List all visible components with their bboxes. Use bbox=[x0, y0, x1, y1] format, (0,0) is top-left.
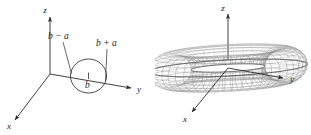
x-axis-label-right: x bbox=[182, 114, 187, 124]
torus-figure: b − a b + a b z y x bbox=[0, 0, 311, 135]
leader-inner bbox=[63, 42, 72, 74]
z-axis-label-left: z bbox=[42, 5, 47, 15]
label-center-distance: b bbox=[85, 80, 90, 90]
y-axis-label-right: y bbox=[289, 74, 294, 84]
panel-generating-circle: b − a b + a b z y x bbox=[0, 0, 155, 135]
z-axis-label-right: z bbox=[220, 3, 225, 13]
label-inner-radius: b − a bbox=[48, 31, 69, 41]
y-axis-label-left: y bbox=[136, 84, 141, 94]
y-axis-left bbox=[50, 74, 131, 88]
torus-mesh bbox=[155, 44, 307, 92]
panel-torus-surface: z y x bbox=[155, 0, 311, 135]
x-axis-label-left: x bbox=[6, 121, 11, 131]
x-axis-left bbox=[15, 74, 50, 120]
label-outer-radius: b + a bbox=[96, 38, 117, 48]
